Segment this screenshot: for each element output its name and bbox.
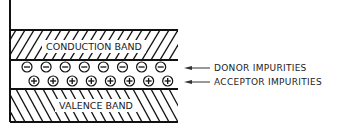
hatch-line: [142, 89, 160, 122]
hatch-line: [187, 89, 205, 122]
hatch-line: [34, 89, 52, 122]
donor-arrowhead-icon: [184, 66, 192, 70]
acceptor-impurity-row: [29, 76, 173, 86]
valence-band: VALENCE BAND: [0, 89, 214, 122]
conduction-band: CONDUCTION BAND: [0, 30, 214, 60]
acceptor-arrowhead-icon: [184, 80, 192, 84]
hatch-line: [0, 89, 7, 122]
hatch-line: [25, 89, 43, 122]
acceptor-label: ACCEPTOR IMPURITIES: [214, 77, 322, 87]
hatch-line: [16, 89, 34, 122]
hatch-line: [0, 30, 16, 60]
hatch-line: [160, 30, 178, 60]
hatch-line: [178, 30, 196, 60]
donor-annotation: DONOR IMPURITIES: [184, 63, 307, 73]
donor-label: DONOR IMPURITIES: [214, 63, 307, 73]
hatch-line: [196, 89, 214, 122]
hatch-line: [0, 89, 16, 122]
conduction-band-label: CONDUCTION BAND: [46, 41, 142, 52]
valence-band-label: VALENCE BAND: [59, 100, 133, 111]
hatch-line: [151, 30, 169, 60]
hatch-line: [16, 30, 34, 60]
hatch-line: [160, 89, 178, 122]
hatch-line: [0, 30, 7, 60]
hatch-line: [196, 30, 214, 60]
band-diagram: CONDUCTION BAND VALENCE BAND DONOR IMPUR…: [0, 0, 341, 128]
hatch-line: [187, 30, 205, 60]
donor-impurity-row: [22, 62, 166, 72]
hatch-line: [178, 89, 196, 122]
acceptor-annotation: ACCEPTOR IMPURITIES: [184, 77, 322, 87]
hatch-line: [151, 89, 169, 122]
hatch-line: [169, 30, 187, 60]
hatch-line: [169, 89, 187, 122]
hatch-line: [25, 30, 43, 60]
